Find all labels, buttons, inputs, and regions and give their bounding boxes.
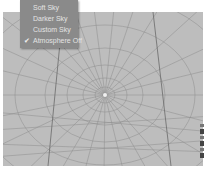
viewport-side-toolbar	[199, 124, 204, 164]
menu-item-label: Darker Sky	[33, 15, 68, 22]
menu-item-label: Atmosphere Off	[33, 37, 82, 44]
tool-icon[interactable]	[200, 153, 204, 158]
menu-item-atmosphere-off[interactable]: ✔ Atmosphere Off	[20, 35, 78, 46]
menu-item-soft-sky[interactable]: Soft Sky	[20, 2, 78, 13]
tool-icon[interactable]	[200, 124, 204, 127]
menu-item-label: Soft Sky	[33, 4, 59, 11]
tool-icon[interactable]	[200, 148, 204, 151]
tool-icon[interactable]	[200, 136, 204, 139]
sky-atmosphere-menu: Soft Sky Darker Sky Custom Sky ✔ Atmosph…	[20, 0, 78, 48]
tool-icon[interactable]	[200, 129, 204, 134]
menu-item-label: Custom Sky	[33, 26, 71, 33]
tool-icon[interactable]	[200, 141, 204, 146]
menu-item-custom-sky[interactable]: Custom Sky	[20, 24, 78, 35]
checkmark-icon: ✔	[24, 35, 30, 46]
menu-item-darker-sky[interactable]: Darker Sky	[20, 13, 78, 24]
